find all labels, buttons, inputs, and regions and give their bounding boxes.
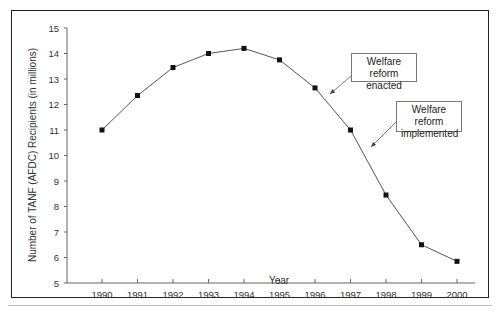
data-point-marker	[455, 259, 460, 264]
y-tick-label: 10	[48, 150, 59, 161]
x-tick-label: 1991	[127, 289, 148, 300]
data-point-marker	[419, 242, 424, 247]
y-tick-label: 5	[54, 278, 59, 289]
data-point-marker	[171, 65, 176, 70]
annotation-line2: implemented	[401, 128, 457, 140]
y-tick-label: 12	[48, 99, 59, 110]
x-tick-label: 1993	[198, 289, 219, 300]
data-point-marker	[206, 51, 211, 56]
y-tick-label: 11	[49, 125, 59, 136]
data-point-marker	[384, 193, 389, 198]
y-tick-label: 8	[54, 201, 59, 212]
x-tick-label: 2000	[446, 289, 467, 300]
x-tick-label: 1995	[269, 289, 290, 300]
y-tick-label: 6	[54, 252, 59, 263]
annotation-line1: Welfare reform	[401, 104, 457, 128]
x-tick-label: 1996	[304, 289, 325, 300]
x-tick-label: 1994	[233, 289, 254, 300]
x-tick-label: 1992	[162, 289, 183, 300]
data-point-marker	[135, 93, 140, 98]
annotation-line1: Welfare reform	[356, 56, 412, 80]
annotation-arrow	[371, 122, 396, 147]
y-tick-label: 15	[48, 23, 59, 34]
y-axis-title: Number of TANF (AFDC) Recipients (in mil…	[27, 48, 38, 262]
data-point-marker	[313, 85, 318, 90]
annotation-welfare-reform-implemented: Welfare reform implemented	[396, 101, 462, 132]
y-tick-label: 9	[54, 176, 59, 187]
data-point-marker	[277, 57, 282, 62]
x-tick-label: 1990	[91, 289, 112, 300]
y-tick-label: 7	[54, 227, 59, 238]
y-tick-label: 13	[48, 74, 59, 85]
line-chart: 5678910111213141519901991199219931994199…	[0, 0, 499, 311]
annotation-line2: enacted	[356, 80, 412, 92]
annotation-welfare-reform-enacted: Welfare reform enacted	[351, 53, 417, 82]
x-tick-label: 1997	[340, 289, 361, 300]
y-tick-label: 14	[48, 48, 59, 59]
data-point-marker	[242, 46, 247, 51]
x-tick-label: 1998	[375, 289, 396, 300]
x-tick-label: 1999	[411, 289, 432, 300]
data-point-marker	[348, 128, 353, 133]
data-point-marker	[100, 128, 105, 133]
x-axis-title: Year	[269, 275, 290, 286]
